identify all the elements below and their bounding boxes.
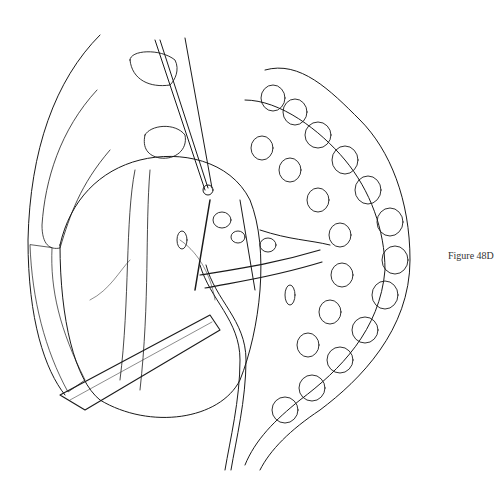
catheter xyxy=(200,265,246,470)
abdominal-wall-left xyxy=(28,35,110,395)
figure-caption: Figure 48D xyxy=(448,250,494,261)
colon xyxy=(245,68,410,470)
surgical-illustration xyxy=(0,0,496,489)
retractor xyxy=(60,315,220,410)
blood-vessels xyxy=(177,200,330,305)
organ-mass-center xyxy=(60,156,261,417)
forceps xyxy=(155,38,213,195)
